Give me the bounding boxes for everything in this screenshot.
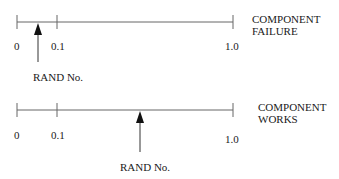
tick-label-0: 0 bbox=[14, 129, 20, 141]
tick-label-0-1: 0.1 bbox=[51, 129, 65, 141]
caption-line1: COMPONENT bbox=[252, 13, 320, 25]
tick-label-1-0: 1.0 bbox=[225, 133, 239, 145]
tick-label-0-1: 0.1 bbox=[51, 40, 65, 52]
number-line-works bbox=[17, 103, 233, 152]
caption-line2: FAILURE bbox=[252, 25, 298, 37]
arrow-up-icon bbox=[34, 23, 42, 62]
tick-label-1-0: 1.0 bbox=[225, 40, 239, 52]
arrow-up-icon bbox=[136, 111, 144, 152]
arrow-label: RAND No. bbox=[120, 161, 170, 173]
arrow-label: RAND No. bbox=[33, 71, 83, 83]
tick-label-0: 0 bbox=[14, 40, 20, 52]
caption-line2: WORKS bbox=[258, 113, 298, 125]
number-line-failure bbox=[17, 15, 233, 62]
caption-line1: COMPONENT bbox=[258, 101, 326, 113]
